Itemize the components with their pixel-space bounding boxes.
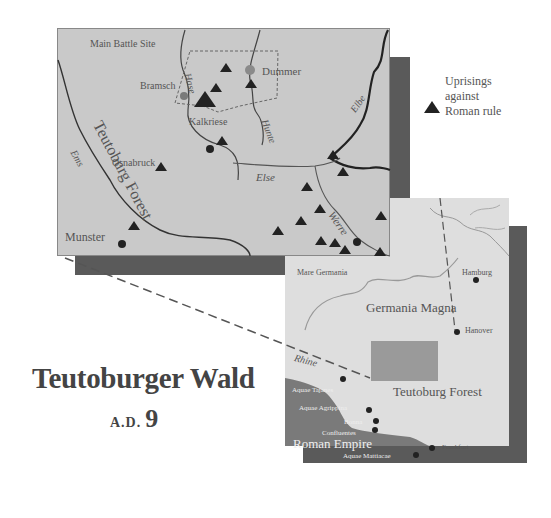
- label-main-battle-site: Main Battle Site: [90, 38, 156, 49]
- legend-line-3: Roman rule: [445, 104, 501, 119]
- werre-river: [315, 166, 390, 256]
- label-hanover: Hanover: [465, 326, 493, 335]
- label-aquae-agrippina: Aquae Agrippina: [299, 404, 347, 412]
- label-else: Else: [256, 171, 275, 183]
- label-munster: Munster: [65, 230, 105, 245]
- label-kalkriese: Kalkriese: [189, 116, 227, 127]
- era-label: A.D.: [110, 415, 141, 430]
- year-label: 9: [145, 404, 158, 433]
- label-roman-empire: Roman Empire: [293, 436, 372, 452]
- label-dummer: Dummer: [262, 65, 301, 77]
- subtitle: A.D. 9: [110, 404, 158, 434]
- label-frankfurt: Frankfurt: [442, 443, 468, 451]
- page-title: Teutoburger Wald: [32, 362, 255, 395]
- legend-label: Uprisings against Roman rule: [445, 74, 501, 119]
- legend-line-2: against: [445, 89, 501, 104]
- label-bonna: Bonna: [344, 418, 362, 426]
- label-hamburg: Hamburg: [462, 268, 492, 277]
- label-aquae-mattiacae: Aquae Mattiacae: [343, 452, 391, 460]
- legend-line-1: Uprisings: [445, 74, 501, 89]
- teutoburg-highlight-box: [371, 341, 438, 381]
- label-aquae-tajanes: Aquae Tajanes: [292, 386, 333, 394]
- label-bramsch: Bramsch: [140, 80, 176, 91]
- else-river: [233, 158, 340, 167]
- label-germania-magna: Germania Magna: [366, 300, 457, 316]
- label-mare-germania: Mare Germania: [297, 268, 347, 277]
- uprising-markers: [128, 63, 440, 256]
- label-teutoburg-forest-overview: Teutoburg Forest: [393, 384, 482, 400]
